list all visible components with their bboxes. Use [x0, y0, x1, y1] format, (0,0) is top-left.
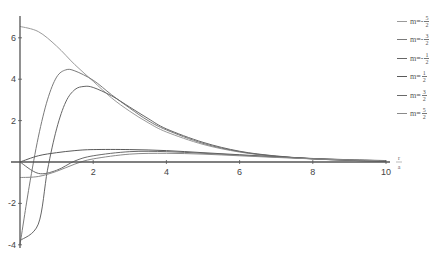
y-tick-label: 6	[11, 33, 16, 43]
legend-label: m=-	[410, 54, 423, 63]
line-chart: 246810-4-2246ra	[0, 0, 444, 257]
legend-fraction: 52	[424, 15, 429, 28]
legend-item: m=-12	[397, 49, 429, 68]
y-tick-label: -2	[8, 198, 16, 208]
x-axis-label-den: a	[398, 164, 401, 170]
legend-item: m=-52	[397, 12, 429, 31]
legend-label: m=	[410, 109, 421, 118]
series-line-2	[20, 86, 386, 240]
series-line-1	[20, 69, 386, 244]
legend-swatch	[397, 113, 407, 114]
legend-swatch	[397, 39, 407, 40]
legend-label: m=-	[410, 35, 423, 44]
x-axis-label-num: r	[398, 155, 400, 161]
y-tick-label: -4	[8, 240, 16, 250]
chart-legend: m=-52m=-32m=-12m=12m=32m=52	[397, 12, 429, 123]
legend-fraction: 12	[422, 70, 427, 83]
legend-fraction: 32	[424, 33, 429, 46]
legend-label: m=	[410, 91, 421, 100]
series-line-0	[20, 26, 386, 161]
x-tick-label: 2	[91, 167, 96, 177]
legend-item: m=12	[397, 68, 429, 87]
legend-label: m=	[410, 72, 421, 81]
series-line-5	[20, 153, 386, 177]
y-tick-label: 2	[11, 116, 16, 126]
legend-swatch	[397, 21, 407, 22]
legend-swatch	[397, 95, 407, 96]
legend-item: m=-32	[397, 31, 429, 50]
legend-label: m=-	[410, 17, 423, 26]
legend-item: m=32	[397, 86, 429, 105]
legend-fraction: 12	[424, 52, 429, 65]
y-tick-label: 4	[11, 74, 16, 84]
x-tick-label: 4	[164, 167, 169, 177]
chart-curves	[20, 26, 386, 244]
legend-swatch	[397, 58, 407, 59]
x-tick-label: 10	[381, 167, 391, 177]
legend-swatch	[397, 76, 407, 77]
chart-axes: 246810-4-2246ra	[8, 16, 402, 250]
legend-fraction: 52	[422, 107, 427, 120]
x-tick-label: 8	[310, 167, 315, 177]
legend-fraction: 32	[422, 89, 427, 102]
x-tick-label: 6	[237, 167, 242, 177]
legend-item: m=52	[397, 105, 429, 124]
